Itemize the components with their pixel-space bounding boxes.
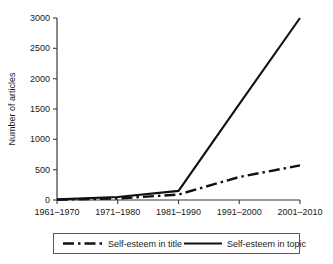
y-tick-label-3000: 3000	[30, 13, 50, 23]
line-chart: Number of articles 3000 2500 2000 1500 1…	[0, 0, 333, 264]
y-tick-label-2000: 2000	[30, 74, 50, 84]
chart-legend: Self-esteem in title Self-esteem in topi…	[54, 234, 307, 254]
x-tick-label-2: 1971–1980	[95, 207, 140, 217]
x-tick-label-3: 1981–1990	[156, 207, 201, 217]
x-tickmarks	[57, 200, 300, 204]
x-tick-label-1: 1961–1970	[34, 207, 79, 217]
y-tick-label-0: 0	[45, 195, 50, 205]
y-tick-label-1000: 1000	[30, 134, 50, 144]
x-tick-label-5: 2001–2010	[277, 207, 322, 217]
series-line-self-esteem-in-title	[57, 165, 300, 199]
x-tick-label-4: 1991–2000	[217, 207, 262, 217]
y-axis-title: Number of articles	[7, 72, 17, 146]
legend-label-self-esteem-in-topic: Self-esteem in topic	[227, 239, 307, 249]
y-tick-label-2500: 2500	[30, 43, 50, 53]
y-tick-label-1500: 1500	[30, 104, 50, 114]
y-tick-label-500: 500	[35, 165, 50, 175]
legend-label-self-esteem-in-title: Self-esteem in title	[108, 239, 182, 249]
chart-figure: Number of articles 3000 2500 2000 1500 1…	[0, 0, 333, 264]
